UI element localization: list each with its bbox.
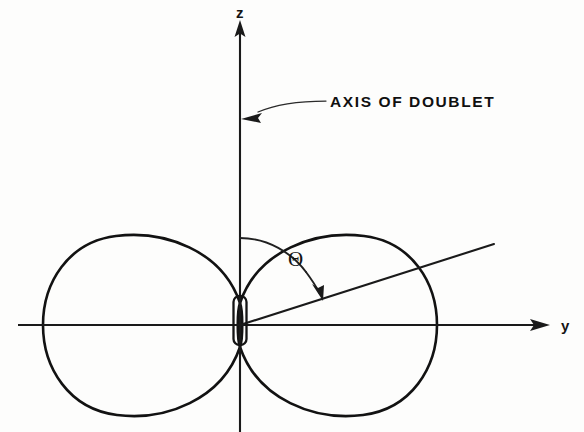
theta-symbol-label: Θ — [288, 247, 303, 271]
axis-of-doublet-label: AXIS OF DOUBLET — [330, 93, 495, 110]
doublet-radiation-pattern-figure: z y Θ AXIS OF DOUBLET — [0, 0, 584, 432]
coordinate-axes: z y — [18, 4, 570, 432]
radial-direction-ray — [240, 244, 494, 325]
callout-leader-line — [258, 101, 326, 112]
arrowhead-down-icon — [312, 284, 324, 301]
diagram-canvas: z y Θ AXIS OF DOUBLET — [0, 0, 584, 432]
z-axis-label: z — [236, 4, 244, 21]
theta-angle-annotation: Θ — [240, 238, 324, 301]
arrowhead-left-icon — [241, 113, 262, 123]
axis-of-doublet-callout: AXIS OF DOUBLET — [241, 93, 495, 123]
y-axis-label: y — [561, 317, 570, 334]
